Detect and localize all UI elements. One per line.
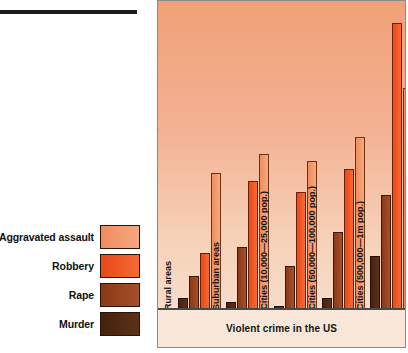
y-axis-tick-mark — [157, 257, 158, 259]
y-axis-tick-mark — [157, 223, 158, 225]
y-axis-tick: 200 — [157, 160, 158, 170]
bar-rape — [333, 232, 343, 312]
y-axis-tick: 50 — [157, 208, 158, 218]
legend-item-rape: Rape — [0, 280, 140, 309]
legend: Aggravated assault Robbery Rape Murder — [0, 222, 140, 338]
y-axis-tick: 600 — [157, 18, 158, 28]
y-axis-tick-mark — [157, 212, 158, 214]
y-axis-tick-mark — [157, 189, 158, 191]
y-axis-tick-mark — [157, 164, 158, 166]
y-axis-tick: 500 — [157, 54, 158, 64]
y-axis-tick-mark — [157, 291, 158, 293]
legend-item-murder: Murder — [0, 309, 140, 338]
bar-rape — [381, 195, 391, 312]
y-axis-tick: 100 — [157, 174, 158, 184]
bar-rape — [189, 276, 199, 313]
legend-swatch-aggravated-assault — [100, 225, 140, 249]
bar-robbery — [344, 169, 354, 313]
y-axis-tick: 40 — [157, 219, 158, 229]
bar-rape — [285, 266, 295, 312]
legend-label: Robbery — [52, 260, 94, 272]
bar-rape — [237, 247, 247, 312]
legend-label: Aggravated assault — [0, 231, 94, 243]
legend-item-aggravated-assault: Aggravated assault — [0, 222, 140, 251]
legend-label: Murder — [59, 318, 94, 330]
bar-robbery — [392, 23, 402, 312]
bar-group-label: Cities (10,000—25,000 pop.) — [259, 191, 269, 310]
plot-area: 102030405060708090100200300400500600 Rur… — [158, 1, 405, 312]
y-axis-line — [157, 1, 158, 312]
y-axis-tick-mark — [157, 129, 158, 131]
bar-group-label: Rural areas — [163, 261, 173, 310]
legend-label: Rape — [69, 289, 94, 301]
y-axis-tick-mark — [157, 22, 158, 24]
chart-panel: 102030405060708090100200300400500600 Rur… — [157, 0, 406, 348]
y-axis-tick: 20 — [157, 253, 158, 263]
bar-robbery — [248, 181, 258, 313]
y-axis-tick-mark — [157, 203, 158, 205]
y-axis-tick: 30 — [157, 233, 158, 243]
bar-robbery — [296, 192, 306, 312]
bar-group-label: Cities (50,000—100,000 pop.) — [307, 186, 317, 310]
y-axis-tick: 400 — [157, 89, 158, 99]
y-axis-tick: 10 — [157, 287, 158, 297]
bar-group-label: Cities (500,000—1m pop.) — [355, 201, 365, 310]
y-axis-tick-mark — [157, 93, 158, 95]
bar-assault — [403, 88, 406, 312]
y-axis-tick: 300 — [157, 125, 158, 135]
y-axis-tick-mark — [157, 58, 158, 60]
bar-group-label: Suburban areas — [211, 242, 221, 310]
chart-x-axis-title: Violent crime in the US — [226, 323, 337, 334]
legend-item-robbery: Robbery — [0, 251, 140, 280]
bar-robbery — [200, 253, 210, 312]
bar-group — [370, 23, 406, 312]
top-divider-rule — [0, 10, 137, 14]
y-axis-tick-mark — [157, 196, 158, 198]
y-axis-tick-mark — [157, 237, 158, 239]
legend-swatch-rape — [100, 283, 140, 307]
y-axis-tick-mark — [157, 178, 158, 180]
y-axis: 102030405060708090100200300400500600 — [157, 1, 158, 312]
legend-swatch-murder — [100, 312, 140, 336]
bar-murder — [370, 256, 380, 312]
x-axis-title-strip: Violent crime in the US — [158, 308, 405, 347]
legend-swatch-robbery — [100, 254, 140, 278]
